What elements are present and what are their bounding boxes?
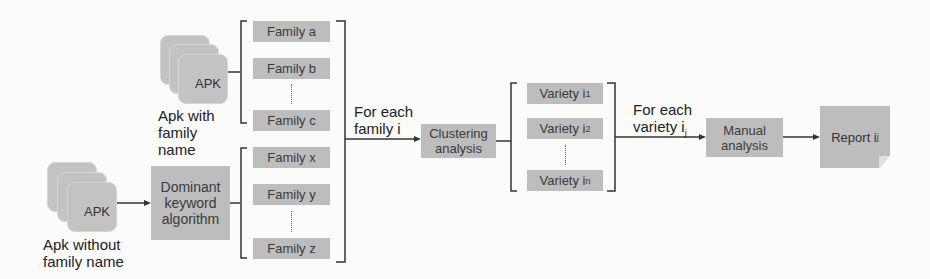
ellipsis-dots: [565, 145, 566, 165]
caption-line: family name: [43, 253, 124, 270]
family-box: Family a: [253, 21, 330, 42]
caption-line: Apk without: [43, 236, 124, 253]
box-line: keyword: [164, 195, 216, 211]
variety-label: Variety i: [539, 173, 585, 188]
family-box: Family b: [253, 58, 330, 79]
apk-tile-label: APK: [84, 204, 110, 219]
variety-label: Variety i: [539, 121, 585, 136]
box-line: analysis: [435, 141, 482, 156]
family-box: Family c: [253, 110, 330, 131]
label-line: For each: [354, 103, 413, 120]
clustering-analysis-box: Clustering analysis: [421, 124, 496, 158]
caption-line: Apk with: [158, 107, 215, 124]
labeled-apk-caption: Apk with family name: [158, 107, 215, 158]
ellipsis-dots: [291, 211, 292, 232]
apk-tile-label: APK: [195, 76, 221, 91]
label-line: variety ij: [633, 118, 692, 135]
caption-line: family: [158, 124, 215, 141]
dominant-keyword-algorithm-box: Dominant keyword algorithm: [151, 166, 230, 240]
unlabeled-apk-caption: Apk without family name: [43, 236, 124, 270]
for-each-variety-label: For each variety ij: [633, 101, 692, 135]
variety-box: Variety i2: [527, 118, 603, 139]
box-line: algorithm: [162, 211, 220, 227]
apk-file-icon: APK: [178, 54, 228, 104]
family-box: Family x: [253, 147, 330, 168]
label-subscript: j: [685, 128, 687, 138]
label-line: family i: [354, 120, 413, 137]
for-each-family-label: For each family i: [354, 103, 413, 137]
family-box: Family z: [253, 238, 330, 259]
box-line: Clustering: [429, 126, 488, 141]
caption-line: name: [158, 141, 215, 158]
box-line: Manual: [723, 123, 766, 138]
report-label: Report i: [831, 130, 877, 145]
variety-box: Variety i1: [527, 83, 603, 104]
box-line: analysis: [721, 138, 768, 153]
label-line: For each: [633, 101, 692, 118]
label-text: variety i: [633, 118, 685, 135]
box-line: Dominant: [161, 179, 221, 195]
family-box: Family y: [253, 184, 330, 205]
apk-file-icon: APK: [67, 182, 117, 232]
variety-box: Variety in: [527, 170, 603, 191]
ellipsis-dots: [291, 84, 292, 104]
manual-analysis-box: Manual analysis: [706, 118, 783, 157]
variety-label: Variety i: [539, 86, 585, 101]
